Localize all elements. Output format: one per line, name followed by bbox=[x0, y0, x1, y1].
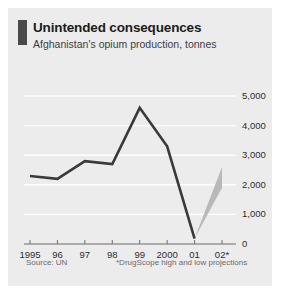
y-axis-tick-label: 1,000 bbox=[242, 208, 266, 219]
y-axis-tick-label: 3,000 bbox=[242, 149, 266, 160]
gridlines-group bbox=[24, 96, 236, 214]
data-line-series-opium bbox=[30, 108, 195, 239]
y-axis-tick-label: 0 bbox=[242, 238, 247, 249]
projection-note: *DrugScope high and low projections bbox=[116, 258, 247, 267]
chart-figure: Unintended consequences Afghanistan's op… bbox=[8, 8, 272, 286]
projection-fan bbox=[195, 167, 222, 238]
x-axis-tick-label: 97 bbox=[80, 249, 91, 260]
projection-wedge bbox=[195, 167, 222, 238]
y-axis-tick-label: 5,000 bbox=[242, 90, 266, 101]
x-axis-group bbox=[24, 240, 236, 244]
y-axis-tick-label: 4,000 bbox=[242, 120, 266, 131]
source-note: Source: UN bbox=[26, 258, 67, 267]
y-axis-tick-label: 2,000 bbox=[242, 179, 266, 190]
line-chart-plot bbox=[8, 8, 272, 286]
